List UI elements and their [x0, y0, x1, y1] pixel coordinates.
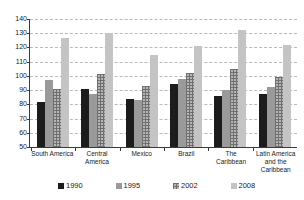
bar-group — [208, 19, 252, 147]
bar-1990 — [126, 99, 134, 147]
legend-item-2002[interactable]: 2002 — [173, 182, 231, 190]
y-tick-mark — [27, 133, 30, 134]
y-tick-mark — [27, 47, 30, 48]
y-tick-label: 80 — [3, 100, 27, 107]
y-tick-label: 140 — [3, 15, 27, 22]
legend-label: 2002 — [181, 182, 198, 190]
y-tick-label: 120 — [3, 43, 27, 50]
legend-item-1990[interactable]: 1990 — [58, 182, 116, 190]
bar-2002 — [275, 77, 283, 147]
bar-group — [75, 19, 119, 147]
bar-1995 — [134, 100, 142, 147]
bar-2008 — [150, 55, 158, 147]
x-axis-label: South America — [30, 150, 75, 174]
bar-2008 — [61, 38, 69, 148]
y-tick-label: 90 — [3, 86, 27, 93]
chart-legend: 1990199520022008 — [58, 182, 288, 190]
y-tick-mark — [27, 104, 30, 105]
legend-swatch-icon — [116, 183, 122, 189]
bar-1995 — [178, 79, 186, 147]
legend-swatch-icon — [58, 183, 64, 189]
bar-1990 — [81, 89, 89, 147]
y-tick-mark — [27, 33, 30, 34]
bar-groups — [31, 19, 297, 147]
bar-2008 — [194, 46, 202, 147]
bar-2008 — [238, 30, 246, 147]
x-axis-label: The Caribbean — [209, 150, 254, 174]
bar-1995 — [267, 87, 275, 147]
y-tick-label: 60 — [3, 129, 27, 136]
bar-2002 — [97, 74, 105, 147]
bar-chart: 5060708090100110120130140 South AmericaC… — [0, 0, 304, 200]
y-tick-mark — [27, 76, 30, 77]
bar-2002 — [142, 86, 150, 147]
y-tick-mark — [27, 90, 30, 91]
bar-1990 — [170, 84, 178, 147]
legend-swatch-icon — [231, 183, 237, 189]
bar-2002 — [230, 69, 238, 147]
bar-2002 — [186, 73, 194, 147]
y-tick-label: 100 — [3, 72, 27, 79]
y-tick-mark — [27, 119, 30, 120]
y-tick-mark — [27, 147, 30, 148]
legend-label: 2008 — [239, 182, 256, 190]
y-tick-label: 50 — [3, 143, 27, 150]
bar-1990 — [259, 94, 267, 147]
legend-label: 1990 — [66, 182, 83, 190]
bar-1995 — [89, 94, 97, 147]
bar-2008 — [105, 33, 113, 147]
bar-group — [120, 19, 164, 147]
y-tick-label: 110 — [3, 58, 27, 65]
bar-1990 — [37, 102, 45, 148]
y-tick-label: 130 — [3, 29, 27, 36]
plot-area — [29, 19, 297, 148]
bar-group — [253, 19, 297, 147]
legend-label: 1995 — [124, 182, 141, 190]
bar-group — [31, 19, 75, 147]
legend-swatch-icon — [173, 183, 179, 189]
x-axis-labels: South AmericaCentral AmericaMexicoBrazil… — [30, 150, 298, 174]
bar-2008 — [283, 45, 291, 147]
x-axis-label: Mexico — [119, 150, 164, 174]
bar-1990 — [214, 96, 222, 147]
y-tick-mark — [27, 62, 30, 63]
bar-2002 — [53, 89, 61, 147]
bar-group — [164, 19, 208, 147]
y-tick-label: 70 — [3, 115, 27, 122]
y-tick-mark — [27, 19, 30, 20]
x-axis-label: Central America — [75, 150, 120, 174]
x-axis-label: Brazil — [164, 150, 209, 174]
x-axis-label: Latin America and the Caribbean — [253, 150, 298, 174]
legend-item-2008[interactable]: 2008 — [231, 182, 289, 190]
bar-1995 — [222, 90, 230, 147]
bar-1995 — [45, 80, 53, 147]
legend-item-1995[interactable]: 1995 — [116, 182, 174, 190]
